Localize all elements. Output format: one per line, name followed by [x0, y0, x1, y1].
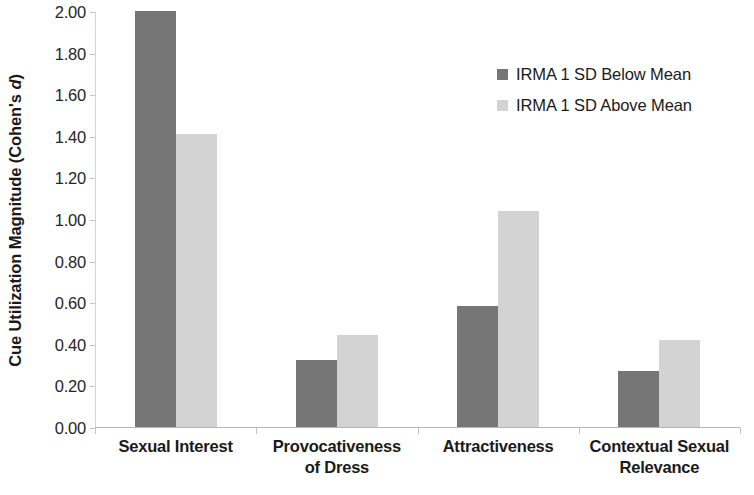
- bar: [498, 211, 539, 427]
- y-axis-tick-mark: [90, 303, 95, 304]
- chart-legend: IRMA 1 SD Below MeanIRMA 1 SD Above Mean: [497, 59, 752, 121]
- x-axis-tick-mark: [740, 428, 741, 434]
- y-axis-tick-mark: [90, 12, 95, 13]
- x-axis-tick-mark: [95, 428, 96, 434]
- x-axis-category-label: Sexual Interest: [95, 436, 256, 457]
- x-axis-category-labels: Sexual InterestProvocativenessof DressAt…: [95, 436, 740, 495]
- legend-label: IRMA 1 SD Above Mean: [516, 96, 692, 115]
- y-axis-tick-label: 1.20: [24, 169, 86, 188]
- bar: [296, 360, 337, 427]
- bar: [659, 340, 700, 427]
- x-axis-category-label: Attractiveness: [418, 436, 579, 457]
- y-axis-tick-mark: [90, 54, 95, 55]
- x-axis-category-label: Contextual SexualRelevance: [579, 436, 740, 478]
- y-axis-tick-mark: [90, 345, 95, 346]
- y-axis-tick-label: 0.20: [24, 377, 86, 396]
- y-axis-tick-label: 1.80: [24, 44, 86, 63]
- y-axis-title-italic: d: [6, 79, 24, 89]
- y-axis-tick-label: 1.40: [24, 127, 86, 146]
- bar-group: [296, 11, 378, 427]
- y-axis-tick-mark: [90, 220, 95, 221]
- legend-swatch-icon: [497, 69, 508, 80]
- y-axis-title-tail: ): [6, 74, 24, 79]
- y-axis-tick-mark: [90, 95, 95, 96]
- y-axis-tick-label: 1.60: [24, 86, 86, 105]
- y-axis-tick-label: 1.00: [24, 211, 86, 230]
- y-axis-line: [95, 12, 96, 428]
- y-axis-tick-mark: [90, 137, 95, 138]
- legend-item[interactable]: IRMA 1 SD Below Mean: [497, 59, 752, 90]
- x-axis-category-label-line: Sexual Interest: [95, 436, 256, 457]
- legend-item[interactable]: IRMA 1 SD Above Mean: [497, 90, 752, 121]
- legend-label: IRMA 1 SD Below Mean: [516, 65, 691, 84]
- bar: [618, 371, 659, 427]
- bar: [135, 11, 176, 427]
- x-axis-category-label-line: Contextual Sexual: [579, 436, 740, 457]
- x-axis-tick-mark: [579, 428, 580, 434]
- x-axis-tick-mark: [256, 428, 257, 434]
- bar: [337, 335, 378, 427]
- x-axis-category-label-line: Attractiveness: [418, 436, 579, 457]
- bar: [457, 306, 498, 427]
- y-axis-title-text: Cue Utilization Magnitude (Cohen's d): [6, 74, 25, 367]
- legend-swatch-icon: [497, 100, 508, 111]
- y-axis-title-plain: Cue Utilization Magnitude (Cohen's: [6, 89, 24, 366]
- y-axis-tick-mark: [90, 386, 95, 387]
- bar-chart: Cue Utilization Magnitude (Cohen's d) 2.…: [0, 0, 754, 495]
- y-axis-tick-labels: 2.001.801.601.401.201.000.800.600.400.20…: [24, 0, 86, 440]
- y-axis-tick-label: 0.00: [24, 419, 86, 438]
- bar: [176, 134, 217, 427]
- x-axis-tick-mark: [418, 428, 419, 434]
- y-axis-tick-mark: [90, 262, 95, 263]
- x-axis-category-label-line: of Dress: [256, 457, 417, 478]
- y-axis-tick-mark: [90, 178, 95, 179]
- x-axis-category-label-line: Relevance: [579, 457, 740, 478]
- y-axis-tick-label: 2.00: [24, 3, 86, 22]
- y-axis-tick-label: 0.80: [24, 252, 86, 271]
- y-axis-tick-label: 0.40: [24, 335, 86, 354]
- x-axis-category-label: Provocativenessof Dress: [256, 436, 417, 478]
- bar-group: [135, 11, 217, 427]
- x-axis-category-label-line: Provocativeness: [256, 436, 417, 457]
- y-axis-tick-label: 0.60: [24, 294, 86, 313]
